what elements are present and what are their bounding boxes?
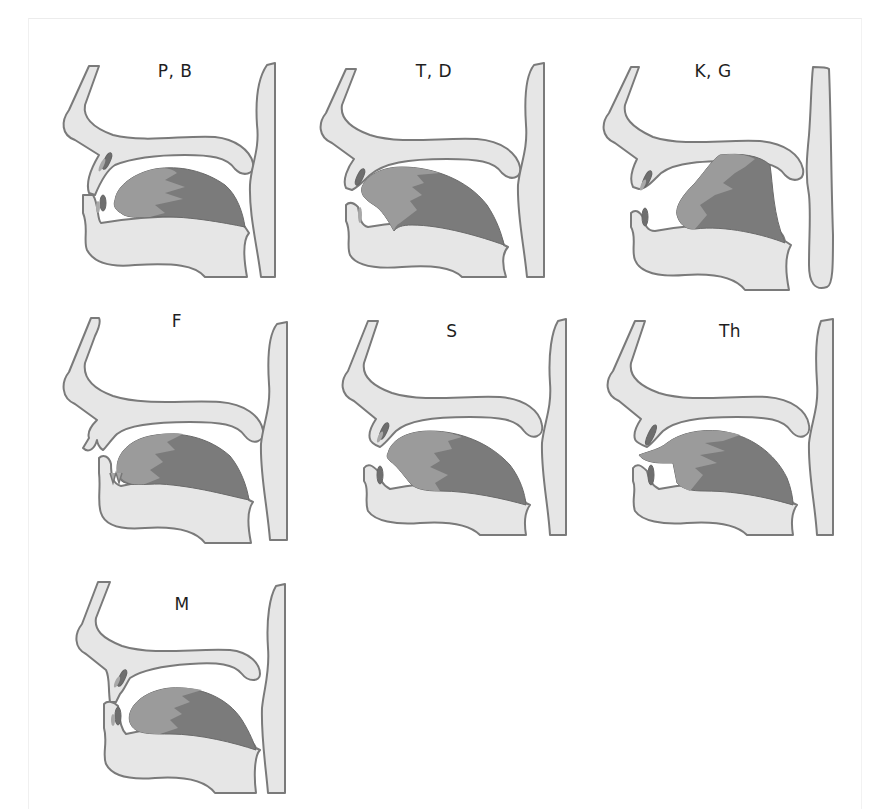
panel-t-d: T, D — [312, 55, 547, 280]
vocal-tract-diagram — [55, 55, 285, 280]
vocal-tract-diagram — [312, 55, 547, 280]
panel-label: F — [172, 311, 182, 331]
panel-label: Th — [719, 321, 741, 341]
panel-label: M — [174, 594, 189, 614]
vocal-tract-diagram — [330, 313, 565, 538]
panel-k-g: K, G — [595, 55, 840, 295]
panel-label: P, B — [158, 61, 193, 81]
panel-m: M — [70, 578, 295, 798]
panel-label: S — [446, 321, 457, 341]
panel-p-b: P, B — [55, 55, 285, 280]
panel-label: K, G — [694, 61, 731, 81]
panel-label: T, D — [416, 61, 452, 81]
vocal-tract-diagram — [55, 308, 290, 548]
panel-th: Th — [595, 313, 835, 538]
vocal-tract-diagram — [595, 313, 835, 538]
vocal-tract-diagram — [595, 55, 840, 295]
panel-f: F — [55, 308, 290, 548]
panel-s: S — [330, 313, 565, 538]
